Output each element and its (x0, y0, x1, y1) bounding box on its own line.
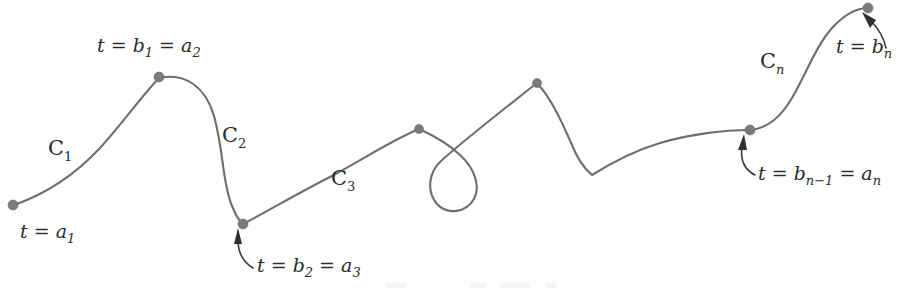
curve-segment-c1 (14, 78, 159, 205)
arrow-leader-line (238, 240, 253, 268)
arrow-head (234, 228, 242, 244)
curve-segment-c2 (159, 77, 243, 224)
scan-artifact (545, 283, 557, 288)
node-dot-b2a3 (238, 219, 248, 229)
param-label-end-main: t = b (836, 35, 884, 57)
param-label-b2a3: t = b2 = a3 (257, 254, 361, 280)
param-label-bn1an-sub2: n (873, 173, 881, 188)
scan-artifact (500, 283, 530, 288)
param-label-b2a3-sub1: 2 (304, 265, 313, 280)
param-label-b2a3-main2: = a (313, 254, 352, 276)
node-dot-b1a2 (154, 72, 164, 82)
param-label-b1a2-main: t = b (97, 34, 145, 56)
arrow-leader-line (742, 146, 755, 175)
segment-label-cn: Cn (760, 49, 784, 77)
param-label-bn1an-main2: = a (833, 162, 872, 184)
segment-label-c2-subscript: 2 (238, 136, 246, 151)
param-label-bn1an-sub1: n−1 (806, 173, 834, 188)
param-label-start-sub: 1 (67, 231, 75, 246)
segment-label-cn-letter: C (760, 49, 776, 73)
curve-segment-middle (537, 83, 750, 175)
node-dot-start (8, 200, 18, 210)
segment-label-cn-subscript: n (776, 62, 784, 77)
arrow-head (862, 12, 876, 28)
segment-label-c1-letter: C (48, 136, 64, 160)
curve-segment-loop (419, 83, 537, 211)
segment-label-c3: C3 (331, 166, 355, 194)
param-label-start: t = a1 (20, 220, 75, 246)
segment-label-c1-subscript: 1 (64, 149, 72, 164)
node-dot-end (863, 3, 873, 13)
param-label-b1a2-sub1: 1 (145, 45, 153, 60)
segment-label-c2: C2 (222, 123, 246, 151)
arrow-head (738, 134, 747, 150)
param-label-start-main: t = a (20, 220, 67, 242)
node-dot-mid1 (415, 125, 424, 134)
scan-artifact (470, 283, 486, 288)
param-label-bn1an: t = bn−1 = an (758, 162, 881, 188)
segment-label-c1: C1 (48, 136, 72, 164)
segment-label-c2-letter: C (222, 123, 238, 147)
param-label-b1a2-sub2: 2 (191, 45, 200, 60)
segment-label-c3-subscript: 3 (347, 179, 355, 194)
arrow-bn1an (738, 134, 755, 175)
param-label-b2a3-sub2: 3 (352, 265, 360, 280)
param-label-b1a2-main2: = a (153, 34, 192, 56)
param-label-bn1an-main: t = b (758, 162, 806, 184)
node-dot-mid2 (533, 79, 542, 88)
scan-artifact (385, 283, 407, 288)
param-label-b2a3-main: t = b (257, 254, 305, 276)
curve-diagram: C1 C2 C3 Cn t = a1 t = b1 = a2 t = b2 = … (0, 0, 908, 291)
segment-label-c3-letter: C (331, 166, 347, 190)
node-dot-bn1an (745, 125, 755, 135)
param-label-end: t = bn (836, 35, 892, 61)
param-label-end-sub: n (884, 46, 892, 61)
param-label-b1a2: t = b1 = a2 (97, 34, 201, 60)
arrow-b2a3 (234, 228, 253, 268)
